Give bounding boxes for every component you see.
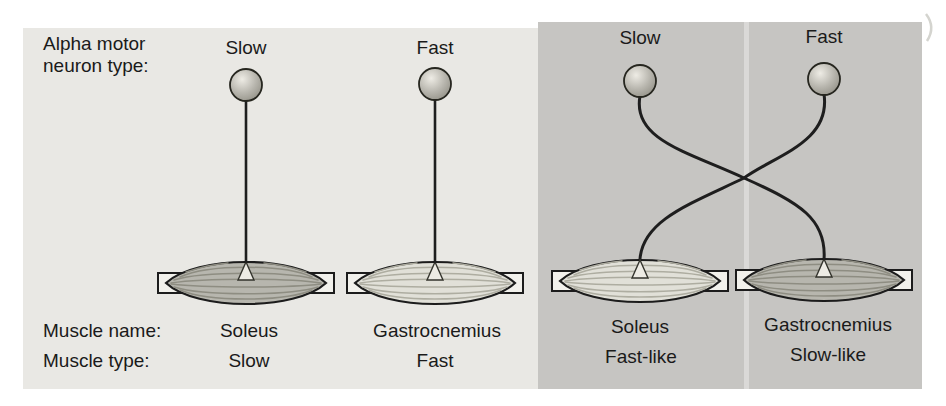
figure-canvas: Alpha motor neuron type: Slow Fast Slow … (0, 0, 946, 406)
page-artifact-mark (926, 14, 931, 41)
neuron-type-row-label-line2: neuron type: (43, 55, 149, 77)
muscle-gastrocnemius-normal (347, 262, 523, 304)
neuron-soma-fast-normal (419, 68, 451, 100)
axon-slow-crossed-to-gastrocnemius (639, 96, 824, 260)
neuron-type-fast-normal: Fast (417, 37, 454, 59)
neuron-type-slow-crossed: Slow (619, 27, 660, 49)
muscle-name-gastrocnemius-crossed: Gastrocnemius (764, 314, 892, 336)
muscle-type-fast-normal: Fast (417, 350, 454, 372)
muscle-type-row-label: Muscle type: (43, 350, 150, 372)
muscle-soleus-crossed (552, 260, 728, 302)
muscle-soleus-normal (158, 262, 334, 304)
muscle-gastrocnemius-crossed (736, 259, 912, 301)
axon-fast-crossed-to-soleus (640, 94, 825, 259)
muscle-name-gastrocnemius-normal: Gastrocnemius (373, 320, 501, 342)
neuron-type-row-label-line1: Alpha motor (43, 33, 149, 55)
muscle-name-soleus-normal: Soleus (220, 320, 278, 342)
muscle-name-soleus-crossed: Soleus (611, 316, 669, 338)
neuron-soma-slow-crossed (624, 65, 656, 97)
neuron-soma-slow-normal (230, 69, 262, 101)
muscle-type-slow-normal: Slow (228, 350, 269, 372)
muscle-name-row-label: Muscle name: (43, 320, 161, 342)
neuron-soma-fast-crossed (808, 63, 840, 95)
neuron-type-row-label: Alpha motor neuron type: (43, 33, 149, 77)
muscle-type-slow-like-crossed: Slow-like (790, 344, 866, 366)
muscle-type-fast-like-crossed: Fast-like (605, 346, 677, 368)
neuron-type-slow-normal: Slow (225, 37, 266, 59)
neuron-type-fast-crossed: Fast (806, 26, 843, 48)
